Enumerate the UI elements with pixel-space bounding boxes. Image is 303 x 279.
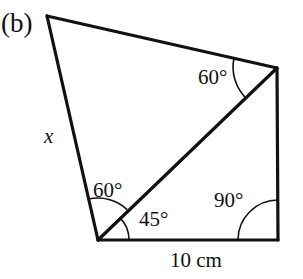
part-label: (b): [1, 10, 32, 37]
side-length-label-x: x: [44, 126, 53, 147]
right-edge: [277, 68, 278, 240]
geometry-figure: (b) x 60° 60° 45° 90° 10 cm: [0, 0, 303, 279]
angle-label-bottom-left-lower: 45°: [139, 209, 168, 230]
top-edge: [47, 16, 277, 68]
angle-label-bottom-right: 90°: [214, 190, 243, 211]
left-edge-x: [47, 16, 98, 240]
base-length-label: 10 cm: [170, 250, 222, 271]
angle-label-bottom-left-upper: 60°: [93, 180, 122, 201]
arc-bottom-right-90-icon: [238, 200, 278, 240]
arc-bottom-left-45-icon: [119, 217, 129, 240]
diagonal-edge: [98, 68, 277, 240]
arc-top-right-60-icon: [233, 58, 246, 98]
angle-label-top-right: 60°: [198, 67, 227, 88]
